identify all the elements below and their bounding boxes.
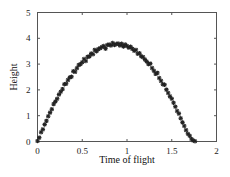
data-point <box>179 116 183 120</box>
y-tick-label: 4 <box>26 33 31 43</box>
axis-ticks <box>38 13 217 142</box>
data-point <box>41 127 45 131</box>
y-tick-label: 3 <box>26 59 31 69</box>
scatter-chart: 00.511.52 012345 Time of flight Height <box>0 0 230 177</box>
data-point <box>60 87 64 91</box>
data-points <box>35 41 197 144</box>
y-tick-label: 5 <box>26 8 31 18</box>
data-point <box>37 135 41 139</box>
data-point <box>182 124 186 128</box>
y-tick-labels: 012345 <box>26 8 31 147</box>
data-point <box>148 61 152 65</box>
data-point <box>171 101 175 105</box>
data-point <box>177 111 181 115</box>
x-tick-label: 0.5 <box>77 146 89 156</box>
x-axis-label: Time of flight <box>99 154 155 165</box>
data-point <box>155 71 159 75</box>
x-tick-label: 2 <box>214 146 219 156</box>
x-tick-label: 0 <box>35 146 40 156</box>
plot-frame <box>38 13 217 142</box>
y-axis-label: Height <box>8 63 19 90</box>
data-point <box>91 52 95 56</box>
y-tick-label: 2 <box>26 85 31 95</box>
data-point <box>173 104 177 108</box>
data-point <box>193 139 197 143</box>
data-point <box>170 96 174 100</box>
data-point <box>69 75 73 79</box>
y-tick-label: 0 <box>26 137 31 147</box>
data-point <box>162 83 166 87</box>
data-point <box>55 96 59 100</box>
data-point <box>50 107 54 111</box>
x-tick-label: 1.5 <box>166 146 178 156</box>
data-point <box>44 119 48 123</box>
data-point <box>84 59 88 63</box>
y-tick-label: 1 <box>26 111 31 121</box>
data-point <box>134 48 138 52</box>
